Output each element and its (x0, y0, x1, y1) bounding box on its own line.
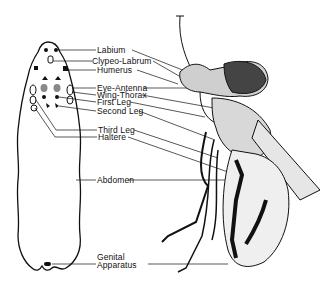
label-abdomen: Abdomen (97, 176, 134, 185)
label-humerus: Humerus (97, 66, 132, 75)
label-apparatus: Apparatus (97, 261, 137, 270)
diagram-drawing (0, 0, 331, 285)
label-second-leg: Second Leg (97, 107, 143, 116)
adult-fly (162, 16, 320, 272)
label-labium: Labium (97, 46, 125, 55)
fly-imaginal-disc-diagram: Labium Clypeo-Labrum Humerus Eye-Antenna… (0, 0, 331, 285)
larva-discs (30, 48, 73, 266)
larva-outline (17, 42, 80, 270)
label-haltere: Haltere (98, 133, 126, 142)
